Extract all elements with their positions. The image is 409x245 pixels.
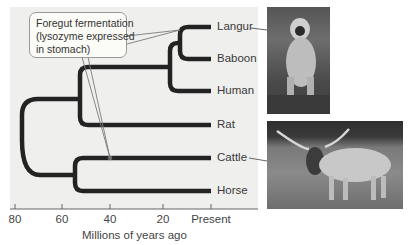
callout-line-2: (lysozyme expressed	[36, 30, 120, 43]
taxon-label-horse: Horse	[217, 185, 248, 197]
taxon-label-human: Human	[217, 85, 254, 97]
axis-tick-20: 20	[157, 214, 170, 226]
axis-tick-present: Present	[191, 214, 231, 226]
taxon-label-langur: Langur	[217, 21, 253, 33]
callout-line-1: Foregut fermentation	[36, 17, 120, 30]
taxon-label-rat: Rat	[217, 119, 235, 131]
foregut-marker-dot	[108, 156, 113, 161]
axis-tick-60: 60	[56, 214, 69, 226]
cattle-photo	[267, 121, 403, 209]
axis-tick-40: 40	[104, 214, 117, 226]
langur-illustration	[267, 7, 330, 114]
axis-title: Millions of years ago	[82, 230, 187, 242]
callout-line-3: in stomach)	[36, 43, 120, 56]
taxon-label-baboon: Baboon	[217, 53, 257, 65]
cattle-illustration	[267, 121, 403, 209]
langur-photo	[267, 7, 330, 114]
foregut-fermentation-callout: Foregut fermentation (lysozyme expressed…	[29, 12, 127, 58]
taxon-label-cattle: Cattle	[217, 152, 247, 164]
axis-tick-80: 80	[9, 214, 22, 226]
